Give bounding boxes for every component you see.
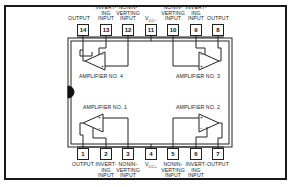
- pin-4: 4: [145, 148, 157, 160]
- amplifier-4-label: AMPLIFIER NO. 4: [79, 73, 123, 79]
- pin-7-label: OUTPUT: [205, 162, 231, 168]
- pin-12-label: NONIN- VERTING INPUT: [114, 5, 142, 22]
- pin-10: 10: [167, 24, 179, 36]
- pin-8-label: OUTPUT: [205, 16, 231, 22]
- pin-3-label: NONIN- VERTING INPUT: [114, 162, 142, 179]
- pin-14-label: OUTPUT: [66, 16, 92, 22]
- pin-6: 6: [190, 148, 202, 160]
- svg-text:+: +: [101, 63, 104, 69]
- amplifier-2-label: AMPLIFIER NO. 2: [176, 104, 220, 110]
- svg-text:−: −: [98, 125, 101, 131]
- amplifier-1-label: AMPLIFIER NO. 1: [83, 104, 127, 110]
- pin-12: 12: [122, 24, 134, 36]
- svg-text:−: −: [101, 51, 104, 57]
- pin-11: 11: [145, 24, 157, 36]
- pin-3: 3: [122, 148, 134, 160]
- pin-9: 9: [190, 24, 202, 36]
- pin-5: 5: [167, 148, 179, 160]
- orientation-notch: [68, 86, 74, 98]
- pin-8: 8: [212, 24, 224, 36]
- svg-text:+: +: [200, 114, 203, 120]
- svg-text:−: −: [200, 51, 203, 57]
- amplifier-3-label: AMPLIFIER NO. 3: [176, 73, 220, 79]
- pin-7: 7: [212, 148, 224, 160]
- svg-text:+: +: [98, 114, 101, 120]
- pin-13: 13: [100, 24, 112, 36]
- pin-2: 2: [100, 148, 112, 160]
- pin-14: 14: [77, 24, 89, 36]
- svg-text:−: −: [200, 125, 203, 131]
- pin-1: 1: [77, 148, 89, 160]
- svg-text:+: +: [200, 63, 203, 69]
